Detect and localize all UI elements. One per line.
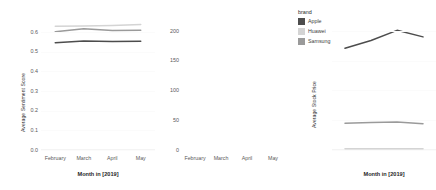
gridline	[332, 90, 436, 91]
gridline	[332, 150, 436, 151]
y-tick-label: 50	[163, 117, 179, 123]
gridline	[41, 150, 155, 151]
x-axis-title-right: Month in [2019]	[332, 171, 436, 177]
legend-swatch-samsung	[297, 37, 306, 46]
legend-item-huawei[interactable]: Huawei	[297, 27, 342, 36]
y-tick-label: 0.0	[22, 147, 38, 153]
stock-lines-svg	[332, 22, 436, 150]
gridline	[41, 130, 155, 131]
gridline	[332, 120, 436, 121]
legend-swatch-apple	[297, 17, 306, 26]
y-tick-label: 0.6	[22, 29, 38, 35]
plot-area-sentiment	[41, 22, 155, 150]
line-apple	[345, 30, 423, 48]
series-group-stock	[332, 22, 436, 150]
panel-sentiment-score: Average Sentiment Score Month in [2019] …	[0, 0, 163, 190]
y-tick-label: 100	[163, 87, 179, 93]
gridline	[41, 52, 155, 53]
legend-items: AppleHuaweiSamsung	[297, 17, 342, 46]
y-tick-label: 0.1	[22, 127, 38, 133]
line-apple	[55, 41, 141, 43]
y-tick-label: 0.3	[22, 88, 38, 94]
line-samsung	[345, 122, 423, 124]
legend-label-huawei: Huawei	[308, 28, 326, 34]
y-tick-label: 200	[163, 28, 179, 34]
line-huawei	[55, 25, 141, 27]
x-tick-label: May	[256, 155, 290, 161]
gridline	[332, 31, 436, 32]
y-axis-title-stock: Average Stock Price	[311, 81, 317, 128]
y-tick-label: 0	[163, 147, 179, 153]
y-tick-label: 0.5	[22, 48, 38, 54]
legend-label-samsung: Samsung	[308, 38, 330, 44]
plot-area-stock	[332, 22, 436, 150]
y-tick-label: 0.2	[22, 107, 38, 113]
y-tick-label: 150	[163, 57, 179, 63]
y-tick-label: 0.4	[22, 68, 38, 74]
x-axis-title-left: Month in [2019]	[41, 171, 155, 177]
gridline	[41, 71, 155, 72]
panel-stock-price: Average Stock Price Month in [2019] 0501…	[150, 0, 290, 190]
legend: brand AppleHuaweiSamsung	[297, 9, 342, 47]
legend-item-apple[interactable]: Apple	[297, 17, 342, 26]
legend-label-apple: Apple	[308, 18, 322, 24]
legend-swatch-huawei	[297, 27, 306, 36]
legend-title: brand	[298, 9, 342, 15]
y-axis-title-sentiment: Average Sentiment Score	[20, 73, 26, 132]
gridline	[332, 61, 436, 62]
gridline	[41, 91, 155, 92]
gridline	[41, 32, 155, 33]
gridline	[41, 111, 155, 112]
legend-item-samsung[interactable]: Samsung	[297, 37, 342, 46]
